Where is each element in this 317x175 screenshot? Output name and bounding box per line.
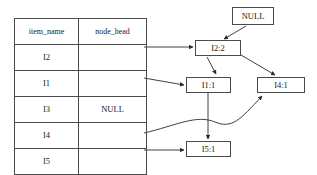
cell-node-head bbox=[79, 149, 147, 175]
diagram-canvas: item_name node_head I2 I1 I3 NULL I4 I5 bbox=[0, 0, 317, 175]
cell-item-name: I5 bbox=[15, 149, 79, 175]
node-i4: I4:1 bbox=[257, 77, 305, 93]
link-i2node-to-i1node bbox=[207, 57, 216, 74]
link-i1row-to-i1node bbox=[144, 78, 184, 85]
table-row: I2 bbox=[15, 45, 147, 71]
table-row: I1 bbox=[15, 71, 147, 97]
cell-item-name: I2 bbox=[15, 45, 79, 71]
link-i4row-to-i4node bbox=[144, 96, 262, 133]
table-header-row: item_name node_head bbox=[15, 19, 147, 45]
node-i2: I2:2 bbox=[195, 40, 241, 56]
cell-node-head bbox=[79, 45, 147, 71]
cell-item-name: I3 bbox=[15, 97, 79, 123]
column-header-node-head: node_head bbox=[79, 19, 147, 45]
column-header-item-name: item_name bbox=[15, 19, 79, 45]
link-null-to-i2node bbox=[224, 26, 246, 39]
node-null: NULL bbox=[232, 7, 274, 25]
cell-node-head bbox=[79, 71, 147, 97]
node-i1: I1:1 bbox=[186, 77, 231, 93]
cell-item-name: I4 bbox=[15, 123, 79, 149]
link-i2node-to-i4node bbox=[241, 55, 275, 75]
table-row: I5 bbox=[15, 149, 147, 175]
table-row: I4 bbox=[15, 123, 147, 149]
cell-node-head bbox=[79, 123, 147, 149]
cell-item-name: I1 bbox=[15, 71, 79, 97]
node-i5: I5:1 bbox=[186, 141, 231, 157]
cell-node-head: NULL bbox=[79, 97, 147, 123]
header-table: item_name node_head I2 I1 I3 NULL I4 I5 bbox=[14, 18, 147, 175]
table-row: I3 NULL bbox=[15, 97, 147, 123]
